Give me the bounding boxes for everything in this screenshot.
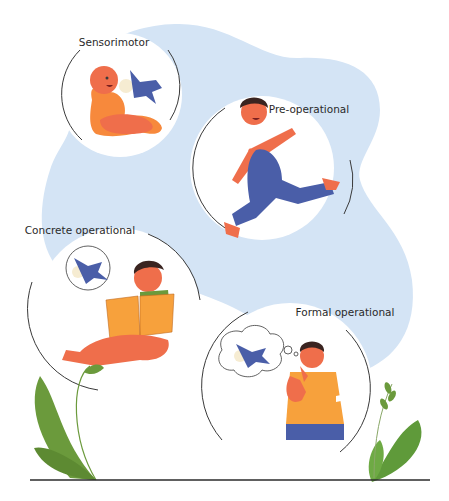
stage-label: Pre-operational: [269, 103, 349, 115]
plant-right: [369, 381, 422, 482]
toy-ball: [119, 79, 133, 93]
bubble: [58, 33, 182, 157]
stage-label: Sensorimotor: [79, 36, 150, 48]
stage-label: Formal operational: [296, 306, 395, 318]
stage-sensorimotor: Sensorimotor: [58, 33, 182, 157]
book-icon: [106, 294, 174, 340]
thought-bubble: [66, 246, 110, 290]
baby-head: [90, 66, 118, 94]
stages-illustration: Sensorimotor Pre-operational: [0, 0, 449, 501]
stage-label: Concrete operational: [25, 224, 135, 236]
